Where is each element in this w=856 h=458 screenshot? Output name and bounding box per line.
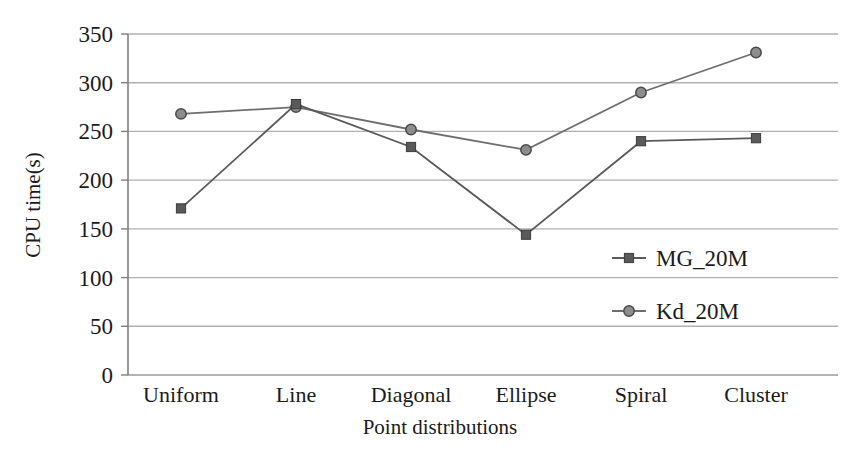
y-tick-label-250: 250 (79, 119, 114, 144)
data-point-mg-cluster (751, 134, 760, 143)
y-tick-label-150: 150 (79, 217, 114, 242)
data-point-mg-uniform (176, 204, 185, 213)
legend-label-kd-20m: Kd_20M (656, 299, 739, 324)
data-point-mg-ellipse (521, 230, 530, 239)
cpu-time-line-chart: 350 300 250 200 150 100 50 0 CPU time(s) (0, 0, 856, 458)
y-tick-label-0: 0 (102, 363, 114, 388)
x-tick-label-line: Line (276, 382, 316, 407)
chart-canvas: 350 300 250 200 150 100 50 0 CPU time(s) (0, 0, 856, 458)
y-tick-label-300: 300 (79, 71, 114, 96)
legend-label-mg-20m: MG_20M (656, 246, 748, 271)
y-tick-label-350: 350 (79, 22, 114, 47)
x-tick-label-uniform: Uniform (143, 382, 219, 407)
circle-marker-icon (624, 306, 634, 316)
square-marker-icon (624, 253, 633, 262)
data-point-mg-spiral (636, 137, 645, 146)
data-point-kd-cluster (751, 47, 761, 57)
x-tick-label-cluster: Cluster (724, 382, 788, 407)
data-point-kd-uniform (176, 109, 186, 119)
y-axis-title: CPU time(s) (21, 152, 45, 258)
y-tick-label-200: 200 (79, 168, 114, 193)
data-point-kd-spiral (636, 87, 646, 97)
x-axis-title: Point distributions (363, 415, 518, 439)
x-tick-label-ellipse: Ellipse (495, 382, 556, 407)
data-point-kd-diagonal (406, 124, 416, 134)
y-tick-label-100: 100 (79, 266, 114, 291)
x-tick-label-spiral: Spiral (615, 382, 668, 407)
y-tick-label-50: 50 (90, 314, 113, 339)
x-tick-label-diagonal: Diagonal (371, 382, 452, 407)
data-point-mg-line (291, 100, 300, 109)
data-point-mg-diagonal (406, 142, 415, 151)
data-point-kd-ellipse (521, 145, 531, 155)
